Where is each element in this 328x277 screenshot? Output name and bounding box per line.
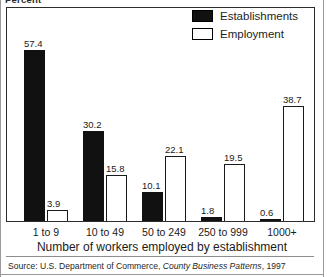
source-prefix: Source: U.S. Department of Commerce, <box>8 261 163 271</box>
legend-item-establishments: Establishments <box>192 7 310 25</box>
x-tick-label-1000-plus: 1000+ <box>252 226 312 238</box>
source-note: Source: U.S. Department of Commerce, Cou… <box>8 261 318 271</box>
legend-swatch-establishments-icon <box>192 10 213 22</box>
legend: Establishments Employment <box>192 7 310 43</box>
legend-swatch-employment-icon <box>192 28 213 40</box>
x-tick-label-10-to-49: 10 to 49 <box>75 226 135 238</box>
x-tick-label-250-to-999: 250 to 999 <box>193 226 253 238</box>
legend-label-establishments: Establishments <box>220 10 298 22</box>
x-axis-title: Number of workers employed by establishm… <box>0 240 324 254</box>
source-suffix: , 1997 <box>262 261 286 271</box>
x-tick-label-1-to-9: 1 to 9 <box>16 226 76 238</box>
y-axis-caption: Percent <box>5 0 75 5</box>
chart-page: Percent Establishments Employment 57.4 3… <box>0 0 328 277</box>
y-axis-caption-text: Percent <box>5 0 75 5</box>
legend-item-employment: Employment <box>192 25 310 43</box>
source-divider <box>6 256 314 257</box>
page-border-left <box>0 0 1 277</box>
x-tick-label-50-to-249: 50 to 249 <box>134 226 194 238</box>
x-axis-baseline <box>7 221 314 222</box>
page-border-bottom <box>0 274 324 275</box>
legend-label-employment: Employment <box>220 28 284 40</box>
source-publication-title: County Business Patterns <box>163 261 262 271</box>
page-border-right <box>323 0 324 277</box>
